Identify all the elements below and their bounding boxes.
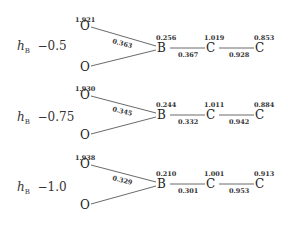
atom-c2: C bbox=[255, 177, 264, 191]
charge-b: 0.244 bbox=[156, 101, 177, 109]
charge-o-top: 1.921 bbox=[75, 16, 95, 24]
charge-o-top: 1.930 bbox=[75, 85, 96, 93]
atom-o-bottom: O bbox=[80, 198, 90, 212]
panel-3: O O B C C 1.938 0.210 1.001 0.913 0.329 … bbox=[75, 154, 275, 212]
bond-c1-c2: 0.953 bbox=[229, 187, 250, 195]
atom-c2: C bbox=[255, 41, 264, 55]
charge-c1: 1.001 bbox=[204, 170, 224, 178]
atom-c1: C bbox=[206, 108, 215, 122]
atom-b: B bbox=[157, 177, 166, 191]
bond-c1-c2: 0.928 bbox=[229, 51, 250, 59]
charge-c1: 1.011 bbox=[204, 101, 224, 109]
bond-o-b: 0.363 bbox=[111, 37, 133, 50]
charge-c1: 1.019 bbox=[204, 34, 225, 42]
atom-b: B bbox=[157, 41, 166, 55]
atom-o-bottom: O bbox=[80, 128, 90, 142]
bond-o-b: 0.345 bbox=[112, 105, 134, 118]
charge-c2: 0.853 bbox=[254, 34, 275, 42]
bond-b-c1: 0.367 bbox=[178, 51, 198, 59]
bond-c1-c2: 0.942 bbox=[229, 118, 249, 126]
bond-o-b: 0.329 bbox=[112, 174, 134, 187]
atom-o-bottom: O bbox=[80, 60, 90, 74]
atom-b: B bbox=[157, 108, 166, 122]
atom-c1: C bbox=[206, 41, 215, 55]
bond-b-c1: 0.332 bbox=[178, 118, 198, 126]
diagram-svg: O O B C C 1.921 0.256 1.019 0.853 0.363 … bbox=[0, 0, 288, 225]
atom-c1: C bbox=[206, 177, 215, 191]
charge-c2: 0.884 bbox=[254, 101, 275, 109]
charge-o-top: 1.938 bbox=[75, 154, 96, 162]
bond-b-c1: 0.301 bbox=[178, 187, 198, 195]
charge-c2: 0.913 bbox=[254, 170, 275, 178]
charge-b: 0.256 bbox=[156, 34, 177, 42]
charge-b: 0.210 bbox=[156, 170, 177, 178]
panel-2: O O B C C 1.930 0.244 1.011 0.884 0.345 … bbox=[75, 85, 275, 142]
panel-1: O O B C C 1.921 0.256 1.019 0.853 0.363 … bbox=[75, 16, 275, 74]
atom-c2: C bbox=[255, 108, 264, 122]
